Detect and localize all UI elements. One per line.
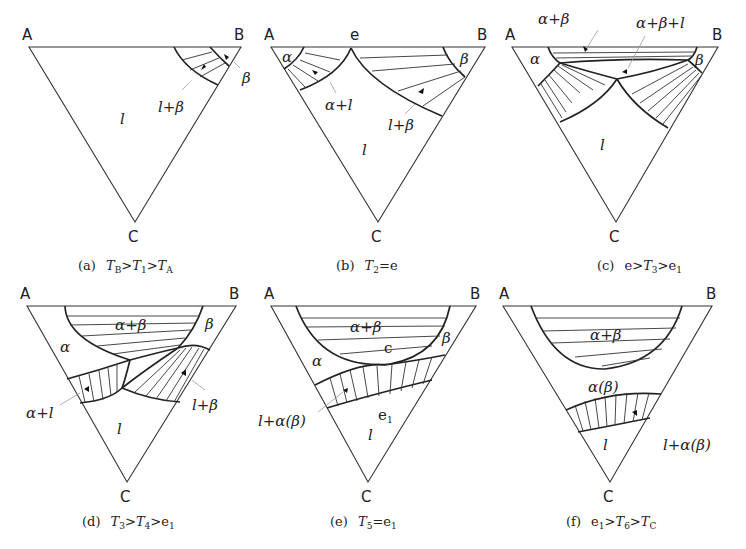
vertex-b-label: B	[229, 285, 239, 303]
tie-line	[182, 52, 212, 60]
three-phase-top-c	[560, 59, 688, 63]
leader-line	[405, 104, 415, 114]
tie-line	[340, 374, 347, 403]
alpha-liquidus-c	[560, 79, 617, 122]
tie-line	[108, 368, 111, 396]
vertex-c-label: C	[603, 488, 613, 506]
phase-beta-label: β	[204, 315, 214, 333]
tie-line	[562, 65, 605, 85]
tie-line	[372, 64, 455, 71]
panel-a: A B C β l+β l (a) TB>T1>TA	[22, 26, 251, 275]
phase-l-plus-alpha-beta-label: l+α(β)	[258, 412, 306, 430]
triangle-a	[29, 47, 241, 222]
leader-line	[182, 82, 190, 90]
leader-line	[330, 82, 336, 93]
tie-line	[605, 396, 607, 427]
vertex-a-label: A	[264, 285, 275, 303]
tie-line	[595, 398, 599, 428]
phase-l-plus-alpha-beta-label: l+α(β)	[663, 436, 711, 454]
caption-a: (a) TB>T1>TA	[78, 258, 173, 275]
arrow-icon	[622, 69, 627, 74]
tie-line	[300, 60, 330, 72]
tie-line	[305, 53, 340, 60]
vertex-a-label: A	[505, 26, 516, 44]
alpha-solidus-c	[538, 63, 560, 86]
svg-text:(e) T5=e1: (e) T5=e1	[330, 514, 397, 531]
phase-alpha-label: α	[60, 338, 70, 356]
panel-f: A B C α+β α(β) l l+α(β) (f) e1>T6>TC	[499, 285, 716, 531]
svg-text:(a) TB>T1>TA: (a) TB>T1>TA	[78, 258, 173, 275]
arrow-icon	[84, 386, 89, 392]
phase-l-plus-beta-label: l+β	[158, 98, 184, 116]
vertex-b-label: B	[470, 285, 480, 303]
tie-line	[585, 401, 591, 430]
vertex-b-label: B	[234, 26, 244, 44]
vertex-b-label: B	[712, 26, 722, 44]
triangle-c	[512, 47, 718, 222]
caption-e: (e) T5=e1	[330, 514, 397, 531]
arrow-icon	[224, 54, 229, 60]
phase-alpha-beta-label: α(β)	[588, 378, 619, 396]
tie-line	[318, 336, 440, 340]
vertex-a-label: A	[499, 285, 510, 303]
phase-alpha-label: α	[312, 352, 322, 370]
caption-tag: (f)	[566, 514, 581, 529]
leader-line	[192, 380, 205, 390]
tie-line	[648, 70, 696, 111]
vertex-a-label: A	[264, 26, 275, 44]
phase-alpha-label: α	[282, 48, 292, 66]
tie-line	[350, 370, 357, 401]
vertex-c-label: C	[609, 228, 619, 246]
caption-f: (f) e1>T6>TC	[566, 514, 656, 531]
phase-l-label: l	[368, 426, 373, 444]
svg-text:(d) T3>T4>e1: (d) T3>T4>e1	[82, 514, 175, 531]
caption-tag: (a)	[78, 258, 96, 273]
phase-l-plus-beta-label: l+β	[192, 396, 218, 414]
beta-solidus-d	[178, 345, 210, 350]
vertex-b-label: B	[477, 26, 487, 44]
caption-b: (b) T2=e	[336, 258, 398, 275]
leader-line	[234, 62, 240, 68]
tie-line	[360, 55, 448, 58]
tie-line	[554, 70, 580, 93]
panel-b: A B C e α β α+l l+β l (b) T2=e	[264, 26, 487, 275]
tie-line	[89, 374, 94, 402]
leader-line	[588, 30, 598, 46]
caption-tag: (b)	[336, 258, 354, 273]
tie-line	[156, 347, 192, 399]
phase-l-label: l	[362, 141, 367, 159]
vertex-b-label: B	[706, 285, 716, 303]
phase-beta-label: β	[694, 51, 704, 69]
vertex-c-label: C	[371, 228, 381, 246]
tie-line	[624, 393, 627, 424]
caption-c: (c) e>T3>e1	[597, 258, 682, 275]
phase-alpha-plus-beta-label: α+β	[115, 316, 147, 334]
caption-tag: (c)	[597, 258, 614, 273]
panel-c: A B C α+β α+β+l α β l	[505, 10, 722, 275]
tie-line	[363, 367, 368, 398]
vertex-a-label: A	[22, 26, 33, 44]
phase-alpha-plus-l-label: α+l	[26, 404, 54, 422]
three-phase-left-c	[560, 63, 617, 79]
phase-l-label: l	[600, 136, 605, 154]
phase-beta-label: β	[459, 50, 469, 68]
tie-line	[377, 366, 379, 396]
vertex-c-label: C	[120, 488, 130, 506]
phase-alpha-plus-beta-label: α+β	[538, 10, 570, 28]
tie-line	[553, 52, 694, 53]
phase-alpha-plus-l-label: α+l	[325, 96, 353, 114]
eutectic-e-label: e	[350, 26, 359, 44]
phase-alpha-plus-beta-label: α+β	[590, 326, 622, 344]
leader-line	[318, 392, 343, 412]
alpha-liquidus-b	[300, 48, 351, 90]
svg-text:(b) T2=e: (b) T2=e	[336, 258, 398, 275]
solidus-band-top-e	[315, 355, 445, 385]
caption-tag: (e)	[330, 514, 348, 529]
ternary-isothermal-sections-figure: A B C β l+β l (a) TB>T1>TA A B C e	[0, 0, 746, 549]
leader-line	[60, 393, 80, 405]
beta-liquidus-c	[617, 79, 668, 128]
beta-boundary-d	[178, 306, 203, 348]
tie-line	[615, 394, 616, 425]
tie-line	[656, 73, 699, 118]
arrow-icon	[312, 70, 318, 75]
